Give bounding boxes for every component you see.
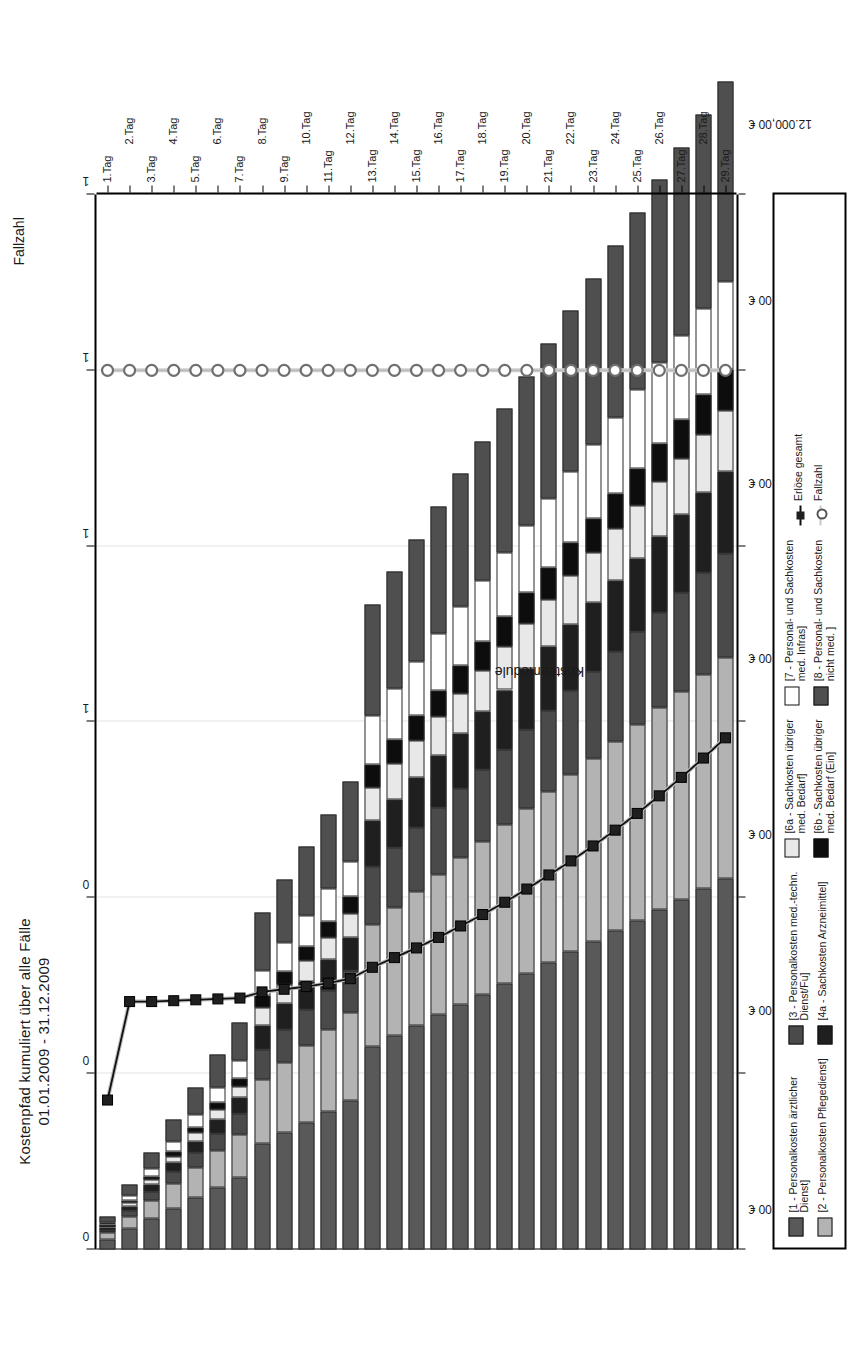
bar-segment-s6b[interactable]	[607, 493, 623, 528]
bar-segment-s3[interactable]	[143, 1191, 159, 1200]
bar-segment-s6b[interactable]	[474, 641, 490, 670]
bar-segment-s1[interactable]	[298, 1122, 314, 1249]
bar-segment-s3[interactable]	[474, 769, 490, 842]
bar-segment-s1[interactable]	[585, 941, 601, 1249]
bar-segment-s7[interactable]	[320, 888, 336, 921]
bar-segment-s4a[interactable]	[651, 536, 667, 611]
bar-segment-s1[interactable]	[518, 973, 534, 1249]
bar-segment-s7[interactable]	[121, 1195, 137, 1200]
bar-segment-s6b[interactable]	[209, 1102, 225, 1109]
bar-segment-s1[interactable]	[209, 1187, 225, 1249]
bar-segment-s4a[interactable]	[143, 1184, 159, 1191]
bar-segment-s6b[interactable]	[386, 739, 402, 763]
bar-segment-s6a[interactable]	[607, 528, 623, 580]
bar-segment-s7[interactable]	[430, 633, 446, 690]
legend-item[interactable]: [4a - Sachkosten Arzneimittel]	[816, 871, 832, 1044]
bar-segment-s2[interactable]	[562, 774, 578, 951]
bar-segment-s2[interactable]	[540, 791, 556, 962]
bar-segment-s6b[interactable]	[276, 971, 292, 984]
bar-segment-s2[interactable]	[408, 891, 424, 1025]
bar-segment-s2[interactable]	[607, 741, 623, 930]
bar-segment-s4a[interactable]	[695, 492, 711, 572]
bar-segment-s7[interactable]	[254, 970, 270, 996]
bar-segment-s4a[interactable]	[254, 1025, 270, 1049]
legend-item[interactable]: [8 - Personal- und Sachkosten nicht med.…	[812, 539, 835, 704]
bar-row[interactable]	[562, 194, 578, 1249]
bar-segment-s6a[interactable]	[187, 1132, 203, 1140]
bar-segment-s4a[interactable]	[452, 733, 468, 788]
bar-segment-s8[interactable]	[386, 571, 402, 687]
bar-segment-s2[interactable]	[585, 758, 601, 941]
bar-segment-s3[interactable]	[408, 827, 424, 891]
bar-row[interactable]	[651, 194, 667, 1249]
bar-segment-s6b[interactable]	[562, 542, 578, 575]
bar-segment-s8[interactable]	[651, 179, 667, 362]
bar-segment-s4a[interactable]	[342, 937, 358, 970]
bar-segment-s2[interactable]	[717, 657, 733, 877]
bar-segment-s6a[interactable]	[651, 481, 667, 536]
bar-row[interactable]	[695, 194, 711, 1249]
bar-segment-s4a[interactable]	[386, 799, 402, 847]
bar-row[interactable]	[298, 194, 314, 1249]
bar-segment-s6b[interactable]	[673, 419, 689, 458]
bar-segment-s6b[interactable]	[430, 690, 446, 716]
bar-row[interactable]	[474, 194, 490, 1249]
bar-segment-s6a[interactable]	[165, 1156, 181, 1163]
bar-segment-s8[interactable]	[209, 1054, 225, 1087]
bar-segment-s3[interactable]	[386, 847, 402, 908]
bar-segment-s3[interactable]	[364, 866, 380, 924]
bar-segment-s8[interactable]	[430, 506, 446, 633]
bar-segment-s8[interactable]	[99, 1216, 115, 1222]
bar-row[interactable]	[607, 194, 623, 1249]
legend-item[interactable]: [3 - Personalkosten med.-techn. Dienst/F…	[787, 871, 810, 1044]
bar-segment-s6b[interactable]	[298, 946, 314, 960]
bar-segment-s8[interactable]	[231, 1022, 247, 1061]
bar-row[interactable]	[585, 194, 601, 1249]
bar-segment-s7[interactable]	[408, 661, 424, 715]
bar-segment-s6a[interactable]	[342, 913, 358, 937]
bar-row[interactable]	[386, 194, 402, 1249]
bar-segment-s3[interactable]	[717, 553, 733, 657]
bar-segment-s8[interactable]	[452, 473, 468, 606]
bar-segment-s2[interactable]	[298, 1045, 314, 1121]
bar-segment-s2[interactable]	[496, 824, 512, 983]
bar-segment-s2[interactable]	[673, 691, 689, 899]
bar-segment-s6a[interactable]	[474, 670, 490, 712]
bar-segment-s8[interactable]	[298, 846, 314, 915]
bar-segment-s2[interactable]	[276, 1062, 292, 1132]
bar-segment-s6a[interactable]	[254, 1007, 270, 1024]
bar-segment-s3[interactable]	[298, 1009, 314, 1045]
bar-segment-s3[interactable]	[562, 690, 578, 774]
bar-segment-s2[interactable]	[629, 724, 645, 920]
bar-segment-s3[interactable]	[629, 631, 645, 724]
bar-segment-s1[interactable]	[717, 878, 733, 1249]
bar-segment-s1[interactable]	[254, 1143, 270, 1249]
legend-item[interactable]: [6a - Sachkosten übriger med. Bedarf]	[783, 719, 806, 857]
bar-segment-s3[interactable]	[673, 592, 689, 691]
bar-segment-s2[interactable]	[518, 808, 534, 973]
legend-item[interactable]: Fallzahl	[812, 433, 826, 525]
bar-segment-s1[interactable]	[231, 1177, 247, 1249]
bar-row[interactable]	[673, 194, 689, 1249]
bar-segment-s6b[interactable]	[585, 518, 601, 552]
bar-row[interactable]	[320, 194, 336, 1249]
bar-segment-s4a[interactable]	[165, 1162, 181, 1171]
bar-row[interactable]	[496, 194, 512, 1249]
bar-segment-s1[interactable]	[364, 1046, 380, 1249]
bar-segment-s8[interactable]	[607, 245, 623, 417]
bar-segment-s4a[interactable]	[607, 580, 623, 651]
bar-segment-s6a[interactable]	[717, 410, 733, 470]
bar-row[interactable]	[408, 194, 424, 1249]
bar-segment-s4a[interactable]	[209, 1119, 225, 1133]
bar-row[interactable]	[276, 194, 292, 1249]
bar-segment-s4a[interactable]	[121, 1206, 137, 1211]
bar-segment-s7[interactable]	[474, 580, 490, 642]
bar-segment-s7[interactable]	[651, 362, 667, 443]
bar-segment-s7[interactable]	[717, 281, 733, 370]
bar-segment-s7[interactable]	[209, 1087, 225, 1102]
bar-segment-s7[interactable]	[629, 389, 645, 468]
bar-row[interactable]	[121, 194, 137, 1249]
bar-segment-s3[interactable]	[496, 749, 512, 824]
bar-segment-s3[interactable]	[121, 1210, 137, 1216]
bar-segment-s7[interactable]	[695, 308, 711, 394]
